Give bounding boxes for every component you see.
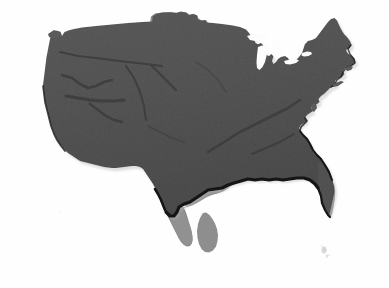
us-relief-map: [0, 0, 389, 288]
map-figure: United States relief map Contiguous Unit…: [0, 0, 389, 288]
